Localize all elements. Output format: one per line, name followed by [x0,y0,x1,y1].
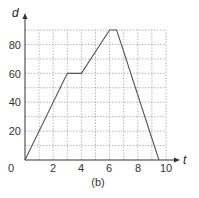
y-tick-60: 60 [9,68,21,80]
chart: d t 0 2 4 6 8 10 20 40 60 80 (b) [0,0,199,198]
x-tick-8: 8 [135,162,141,174]
y-axis-arrow-icon [23,13,28,19]
grid [25,30,166,160]
data-line [25,30,159,160]
figure-caption: (b) [91,176,104,188]
x-tick-4: 4 [78,162,84,174]
x-tick-2: 2 [50,162,56,174]
x-tick-10: 10 [160,162,172,174]
x-axis-arrow-icon [174,158,180,163]
y-tick-80: 80 [9,39,21,51]
x-axis-label: t [183,153,187,167]
y-tick-40: 40 [9,96,21,108]
y-tick-20: 20 [9,125,21,137]
y-axis-label: d [12,6,19,20]
x-tick-6: 6 [106,162,112,174]
origin-label: 0 [8,162,14,174]
